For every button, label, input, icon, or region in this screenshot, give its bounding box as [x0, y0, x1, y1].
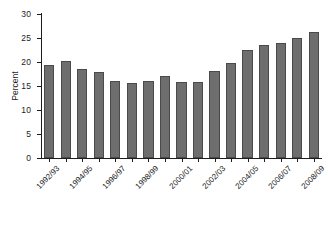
- bar: [259, 45, 269, 158]
- bar: [226, 63, 236, 158]
- x-tick-label: 1996/97: [101, 164, 128, 191]
- bar: [110, 81, 120, 158]
- bar: [193, 82, 203, 158]
- x-tick-label: 2000/01: [167, 164, 194, 191]
- y-tick-label: 0: [26, 153, 31, 163]
- x-tick-label: 1994/95: [68, 164, 95, 191]
- bar: [44, 65, 54, 158]
- bar: [127, 83, 137, 158]
- bar: [94, 72, 104, 158]
- y-tick-label: 25: [21, 33, 31, 43]
- bar-chart: Percent 051015202530 1992/931994/951996/…: [0, 0, 328, 231]
- x-tick-label: 1992/93: [35, 164, 62, 191]
- x-tick-label: 2004/05: [233, 164, 260, 191]
- bar: [160, 76, 170, 158]
- x-tick-label: 1998/99: [134, 164, 161, 191]
- y-axis-title-wrap: Percent: [0, 14, 14, 158]
- bar: [77, 69, 87, 158]
- bar: [209, 71, 219, 158]
- y-tick-label: 15: [21, 81, 31, 91]
- y-tick-label: 30: [21, 9, 31, 19]
- bar: [242, 50, 252, 158]
- bar: [276, 43, 286, 158]
- bar: [176, 82, 186, 158]
- x-tick-label: 2006/07: [266, 164, 293, 191]
- x-tick-label: 2002/03: [200, 164, 227, 191]
- bar: [292, 38, 302, 158]
- bar: [309, 32, 319, 158]
- bar-series: [41, 14, 322, 158]
- bar: [143, 81, 153, 158]
- y-tick: 0: [37, 158, 41, 159]
- plot-area: 051015202530: [41, 14, 322, 158]
- y-axis-title: Percent: [10, 71, 20, 100]
- x-tick-label: 2008/09: [299, 164, 326, 191]
- x-axis-labels: 1992/931994/951996/971998/992000/012002/…: [41, 160, 322, 230]
- y-tick-label: 5: [26, 129, 31, 139]
- y-tick-label: 10: [21, 105, 31, 115]
- bar: [61, 61, 71, 158]
- y-tick-label: 20: [21, 57, 31, 67]
